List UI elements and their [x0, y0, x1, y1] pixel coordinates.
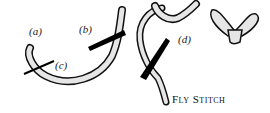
label-b: (b): [79, 23, 92, 35]
label-d: (d): [178, 33, 191, 45]
label-a: (a): [29, 25, 42, 37]
thread-loop-left: [29, 10, 122, 81]
fly-stitch-diagram: (a) (b) (c) (d) Fly Stitch: [0, 0, 270, 113]
diagram-caption: Fly Stitch: [172, 93, 225, 105]
finished-fly-stitch: [211, 10, 259, 44]
label-c: (c): [55, 59, 67, 71]
stitch-illustration: [0, 0, 270, 113]
